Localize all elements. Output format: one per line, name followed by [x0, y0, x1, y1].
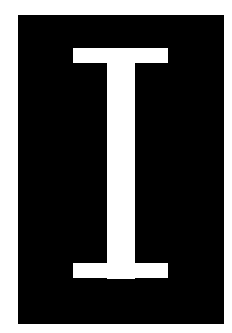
- stem: [107, 62, 135, 279]
- bottom-serif: [73, 263, 168, 278]
- glyph-text: I: [18, 15, 19, 16]
- top-serif: [73, 48, 168, 63]
- letter-tile: I: [18, 15, 224, 324]
